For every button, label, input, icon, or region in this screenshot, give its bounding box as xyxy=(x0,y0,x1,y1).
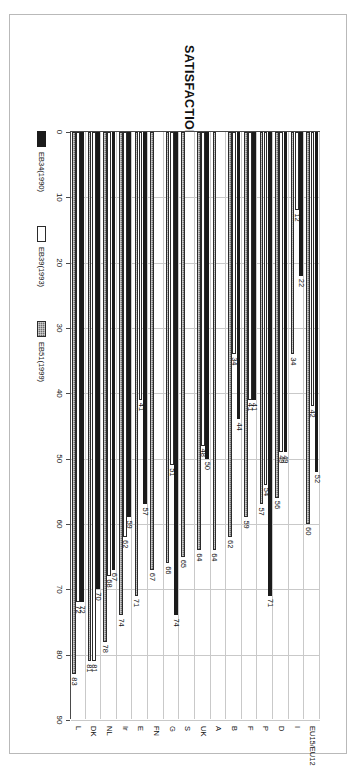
bar xyxy=(291,132,295,354)
category-separator xyxy=(210,132,211,719)
gridline xyxy=(71,655,320,656)
bar xyxy=(299,132,303,276)
category-separator xyxy=(257,132,258,719)
bar-value-label: 71 xyxy=(265,597,274,607)
gridline xyxy=(71,589,320,590)
bar xyxy=(228,132,232,537)
axis-tick-label: 30 xyxy=(55,324,64,333)
legend-label: EB39(1993) xyxy=(37,247,46,287)
axis-tick xyxy=(66,655,70,656)
bar xyxy=(112,132,116,570)
bar xyxy=(76,132,80,602)
bar xyxy=(201,132,205,446)
category-separator xyxy=(100,132,101,719)
bar-value-label: 74 xyxy=(116,616,125,626)
bar xyxy=(268,132,272,596)
bar xyxy=(311,132,315,406)
category-separator xyxy=(132,132,133,719)
category-separator xyxy=(225,132,226,719)
chart-page: SATISFACTION WITH NATIONAL DEMOCRACY 010… xyxy=(0,0,355,769)
bar xyxy=(123,132,127,537)
bar-value-label: 59 xyxy=(241,518,250,528)
bar xyxy=(143,132,147,504)
axis-tick xyxy=(66,524,70,525)
bar xyxy=(174,132,178,615)
bar-value-label: 34 xyxy=(288,355,297,365)
bar-value-label: 62 xyxy=(226,538,235,548)
rotated-figure: SATISFACTION WITH NATIONAL DEMOCRACY 010… xyxy=(0,0,355,769)
bar xyxy=(166,132,170,563)
bar xyxy=(135,132,139,596)
category-label: P xyxy=(261,726,270,731)
bar-value-label: 57 xyxy=(257,505,266,515)
category-separator xyxy=(319,132,320,719)
bar xyxy=(237,132,241,419)
category-label: DK xyxy=(89,726,98,736)
bar-value-label: 64 xyxy=(210,551,219,561)
axis-tick xyxy=(66,720,70,721)
category-separator xyxy=(272,132,273,719)
bar xyxy=(205,132,209,459)
bar xyxy=(119,132,123,615)
category-separator xyxy=(147,132,148,719)
category-separator xyxy=(116,132,117,719)
axis-tick-label: 10 xyxy=(55,193,64,202)
bar xyxy=(181,132,185,557)
legend-item: EB34(1990) xyxy=(37,131,46,192)
legend-label: EB51(1999) xyxy=(37,342,46,382)
bar xyxy=(279,132,283,452)
axis-tick xyxy=(66,263,70,264)
category-separator xyxy=(303,132,304,719)
legend-swatch xyxy=(37,226,46,242)
category-label: I xyxy=(292,726,301,728)
category-label: UK xyxy=(198,726,207,736)
bar xyxy=(315,132,319,472)
bar xyxy=(275,132,279,498)
legend-item: EB51(1999) xyxy=(37,321,46,382)
category-label: B xyxy=(230,726,239,731)
bar-value-label: 60 xyxy=(304,525,313,535)
bar-value-label: 83 xyxy=(69,675,78,685)
category-label: A xyxy=(214,726,223,731)
legend-label: EB34(1990) xyxy=(37,152,46,192)
bar-value-label: 56 xyxy=(272,499,281,509)
bar xyxy=(260,132,264,504)
bar xyxy=(170,132,174,465)
figure-frame: SATISFACTION WITH NATIONAL DEMOCRACY 010… xyxy=(9,14,347,754)
category-label: E xyxy=(136,726,145,731)
category-label: EU15/EU12 xyxy=(308,726,317,766)
axis-tick-label: 70 xyxy=(55,585,64,594)
legend-swatch xyxy=(37,321,46,337)
bar xyxy=(252,132,256,400)
bar-value-label: 22 xyxy=(297,277,306,287)
bar-value-label: 57 xyxy=(140,505,149,515)
category-separator xyxy=(288,132,289,719)
bar xyxy=(72,132,76,674)
bar xyxy=(306,132,310,524)
bar xyxy=(127,132,131,517)
axis-tick xyxy=(66,197,70,198)
category-label: D xyxy=(276,726,285,731)
bar-value-label: 71 xyxy=(132,597,141,607)
bar xyxy=(264,132,268,485)
gridline xyxy=(71,720,320,721)
axis-tick xyxy=(66,459,70,460)
bar-value-label: 78 xyxy=(101,643,110,653)
bar xyxy=(295,132,299,210)
bar xyxy=(284,132,288,452)
legend-item: EB39(1993) xyxy=(37,226,46,287)
axis-tick-label: 50 xyxy=(55,454,64,463)
axis-tick-label: 80 xyxy=(55,650,64,659)
category-separator xyxy=(85,132,86,719)
axis-tick-label: 40 xyxy=(55,389,64,398)
legend-swatch xyxy=(37,131,46,147)
category-label: Ir xyxy=(120,726,129,731)
bar-value-label: 74 xyxy=(172,616,181,626)
category-label: FN xyxy=(151,726,160,736)
bar xyxy=(80,132,84,602)
bar xyxy=(150,132,154,570)
axis-tick-label: 90 xyxy=(55,716,64,725)
axis-tick-label: 20 xyxy=(55,258,64,267)
bar xyxy=(92,132,96,661)
axis-tick xyxy=(66,132,70,133)
